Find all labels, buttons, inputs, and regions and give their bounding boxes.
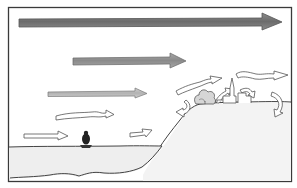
wind-diagram: [0, 0, 297, 188]
diagram-canvas: [0, 0, 297, 188]
